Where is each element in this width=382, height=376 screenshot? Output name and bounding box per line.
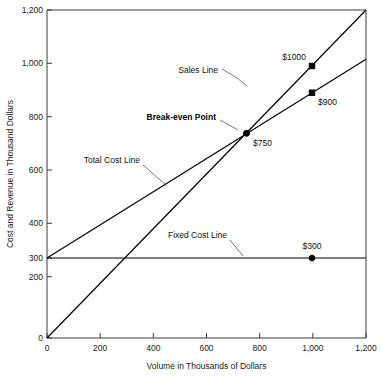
y-tick-label: 400 [29,218,43,228]
break-even-value-label: $750 [253,138,272,148]
y-tick-label: 800 [29,112,43,122]
break-even-point-label: Break-even Point [147,112,217,122]
sales-line-label: Sales Line [178,65,218,75]
y-tick-label: 1,000 [22,58,44,68]
data-point-label-900: $900 [318,97,337,107]
y-tick-label: 200 [29,272,43,282]
break-even-marker [244,130,250,136]
break-even-chart: 1,200 1,000 800 600 400 300 200 0 0 200 … [0,0,382,376]
y-tick-label: 0 [38,333,43,343]
data-point-marker-300 [309,255,315,261]
data-point-marker-900 [309,90,314,95]
total-cost-line-label: Total Cost Line [84,155,140,165]
y-tick-label: 600 [29,165,43,175]
x-axis-title: Volume in Thousands of Dollars [147,361,267,371]
x-tick-label: 800 [253,343,267,353]
x-tick-label: 400 [146,343,160,353]
y-tick-label: 300 [29,253,43,263]
y-tick-label: 1,200 [22,5,44,15]
chart-background [0,0,382,376]
x-tick-label: 1,000 [302,343,324,353]
x-tick-label: 0 [45,343,50,353]
y-axis-title: Cost and Revenue in Thousand Dollars [5,100,15,248]
data-point-label-1000: $1000 [282,52,306,62]
x-tick-label: 1,200 [355,343,377,353]
data-point-marker-1000 [309,63,314,68]
x-tick-label: 600 [199,343,213,353]
x-tick-label: 200 [93,343,107,353]
fixed-cost-line-label: Fixed Cost Line [168,230,227,240]
data-point-label-300: $300 [303,241,322,251]
chart-svg: 1,200 1,000 800 600 400 300 200 0 0 200 … [0,0,382,376]
